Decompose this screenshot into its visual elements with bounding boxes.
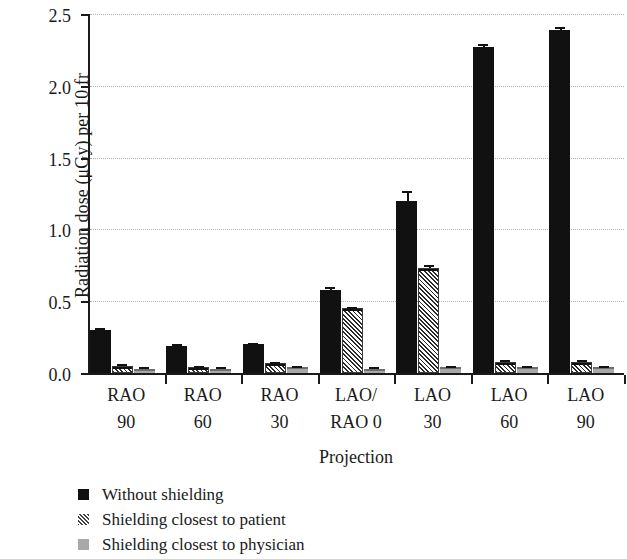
y-tick-mark: 2.0 [81,86,88,88]
x-category-label: RAO90 [88,382,165,436]
bar [166,346,187,373]
bar [495,362,516,373]
error-bar-cap [95,328,105,330]
y-tick-mark: 0.0 [81,373,88,375]
x-category-label-line2: 90 [547,409,624,436]
bar [473,47,494,373]
x-category-label: LAO/RAO 0 [318,382,395,436]
y-tick-label: 2.5 [49,6,72,27]
error-bar-cap [522,366,532,368]
error-bar-cap [599,366,609,368]
gridline [90,14,624,15]
error-bar-cap [424,265,434,267]
x-category-label-line1: LAO [471,382,548,409]
error-bar-cap [139,367,149,369]
error-bar-cap [117,364,127,366]
y-tick-mark: 2.5 [81,14,88,16]
error-bar-cap [292,366,302,368]
error-bar-cap [402,191,412,193]
x-axis-line [88,373,624,375]
legend-swatch-icon [78,489,89,500]
x-category-label-line1: RAO [241,382,318,409]
x-category-label: LAO60 [471,382,548,436]
x-category-label-line1: LAO [547,382,624,409]
error-bar-cap [194,366,204,368]
error-bar-cap [555,27,565,29]
error-bar-cap [248,343,258,345]
y-axis-line [88,14,90,375]
error-bar-cap [347,307,357,309]
x-category-label-line2: 90 [88,409,165,436]
bar [112,366,133,373]
bar [134,369,155,373]
error-bar-cap [325,287,335,289]
legend-item-label: Shielding closest to physician [102,535,305,555]
y-tick-label: 0.0 [49,365,72,386]
legend-swatch-icon [78,539,89,550]
x-category-label: RAO60 [165,382,242,436]
y-tick-label: 2.0 [49,77,72,98]
plot-area: 0.00.51.01.52.02.5 [88,14,624,375]
bar [593,367,614,373]
x-category-label-line1: RAO [88,382,165,409]
error-bar-cap [577,360,587,362]
bar [90,330,111,373]
bar [243,344,264,373]
y-tick-label: 0.5 [49,293,72,314]
x-axis-title: Projection [88,447,624,468]
x-category-label-line1: LAO [394,382,471,409]
bar [396,201,417,373]
error-bar-cap [369,367,379,369]
radiation-dose-bar-chart: Radiation dose (μGy) per 10 fr 0.00.51.0… [0,0,627,559]
gridline [90,86,624,87]
legend-swatch-icon [78,514,89,525]
chart-legend: Without shieldingShielding closest to pa… [78,482,305,557]
bar [440,367,461,373]
legend-item: Shielding closest to patient [78,507,305,532]
error-bar-cap [478,44,488,46]
gridline [90,301,624,302]
x-category-label-line2: 60 [165,409,242,436]
bar [188,367,209,373]
x-category-label-line2: 30 [394,409,471,436]
legend-item: Shielding closest to physician [78,532,305,557]
x-category-label-line2: RAO 0 [318,409,395,436]
bar [517,367,538,373]
bar [265,363,286,373]
bar [364,369,385,373]
error-bar-cap [270,362,280,364]
error-bar-cap [216,367,226,369]
bar [210,369,231,373]
y-tick-mark: 1.5 [81,158,88,160]
bar [342,308,363,373]
x-tick-mark [624,375,626,384]
bar [287,367,308,373]
x-category-label-line1: LAO/ [318,382,395,409]
legend-item: Without shielding [78,482,305,507]
legend-item-label: Without shielding [102,485,224,505]
bar [320,290,341,373]
x-category-label: LAO30 [394,382,471,436]
gridline [90,229,624,230]
x-category-label-line1: RAO [165,382,242,409]
bar [549,30,570,373]
gridline [90,158,624,159]
y-tick-label: 1.5 [49,149,72,170]
error-bar-cap [500,360,510,362]
x-category-label-line2: 60 [471,409,548,436]
x-category-label: LAO90 [547,382,624,436]
bar [571,362,592,373]
legend-item-label: Shielding closest to patient [102,510,286,530]
error-bar-cap [172,344,182,346]
y-tick-mark: 1.0 [81,229,88,231]
y-tick-label: 1.0 [49,221,72,242]
bar [418,268,439,373]
error-bar-cap [446,366,456,368]
x-category-label: RAO30 [241,382,318,436]
x-category-label-line2: 30 [241,409,318,436]
y-tick-mark: 0.5 [81,301,88,303]
